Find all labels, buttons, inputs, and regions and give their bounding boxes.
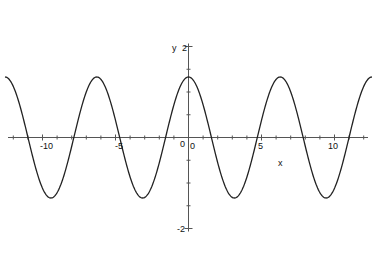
y-axis-label: y [172, 43, 177, 53]
y-tick-label-neg2: -2 [177, 224, 185, 234]
x-axis-label: x [278, 158, 283, 168]
y-tick-label-2: 2 [182, 43, 187, 53]
function-plot: -10 -5 0 0 5 10 x y 2 -2 [0, 0, 376, 272]
x-tick-label-neg5: -5 [115, 141, 123, 151]
x-tick-label-5: 5 [258, 141, 263, 151]
axes [8, 44, 368, 232]
x-tick-label-10: 10 [328, 141, 338, 151]
origin-label-x: 0 [180, 139, 185, 149]
origin-label-y: 0 [190, 141, 195, 151]
x-tick-label-neg10: -10 [40, 141, 53, 151]
